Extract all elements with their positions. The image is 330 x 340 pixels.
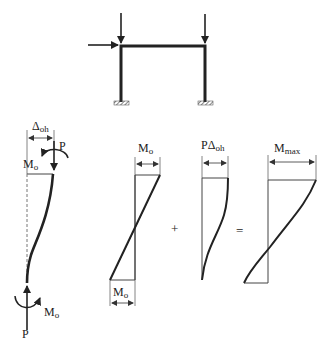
structural-diagram: Δoh P Mo Mo P Mo Mo + PΔoh xyxy=(0,0,330,340)
total-moment-diagram: Mmax xyxy=(244,141,316,283)
p-delta-moment-diagram: PΔoh xyxy=(201,138,228,280)
portal-frame xyxy=(88,13,213,105)
equals-sign: = xyxy=(236,223,243,238)
top-moment-label: Mo xyxy=(23,157,39,172)
deflected-shape-curve xyxy=(27,174,53,283)
fixed-support-left-icon xyxy=(114,101,129,105)
plus-sign: + xyxy=(171,221,178,236)
fixed-support-right-icon xyxy=(198,101,213,105)
bottom-force-label: P xyxy=(22,327,29,340)
bottom-moment-label: Mo xyxy=(44,305,60,320)
first-top-label: Mo xyxy=(138,141,154,156)
first-bottom-label: Mo xyxy=(113,285,129,300)
second-top-label: PΔoh xyxy=(201,138,225,153)
delta-label: Δoh xyxy=(32,119,49,134)
deflected-column: Δoh P Mo Mo P xyxy=(15,119,68,340)
third-top-label: Mmax xyxy=(274,141,301,156)
first-order-moment-diagram: Mo Mo xyxy=(110,141,160,306)
